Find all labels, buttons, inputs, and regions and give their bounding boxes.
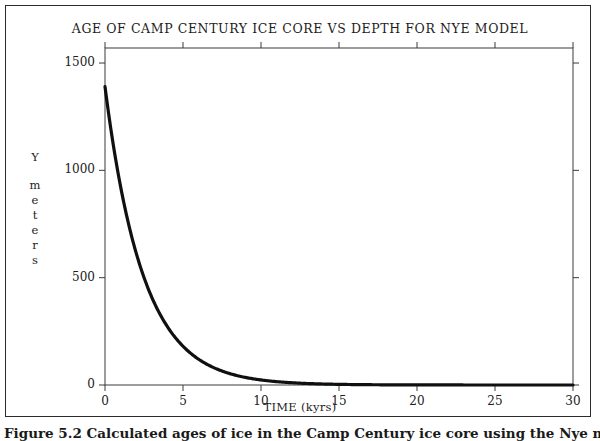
y-axis-title-char: t: [22, 208, 48, 223]
axis-ticks: [99, 42, 579, 391]
y-axis-title-char: Y: [22, 150, 48, 165]
y-axis-title-char: r: [22, 238, 48, 253]
y-tick-label: 0: [39, 377, 95, 391]
y-axis-title-char: m: [22, 178, 48, 193]
y-axis-title-spacer: [22, 165, 48, 178]
plot-frame: [105, 48, 573, 385]
y-axis-title-char: e: [22, 223, 48, 238]
y-tick-label: 500: [39, 270, 95, 284]
y-axis-title-char: s: [22, 253, 48, 268]
y-axis-title: Ymeters: [22, 150, 48, 268]
figure-caption: Figure 5.2 Calculated ages of ice in the…: [4, 425, 600, 441]
y-tick-label: 1500: [39, 55, 95, 69]
y-axis-title-char: e: [22, 193, 48, 208]
x-axis-title: TIME (kyrs): [0, 400, 600, 414]
data-series-curve: [105, 87, 573, 385]
